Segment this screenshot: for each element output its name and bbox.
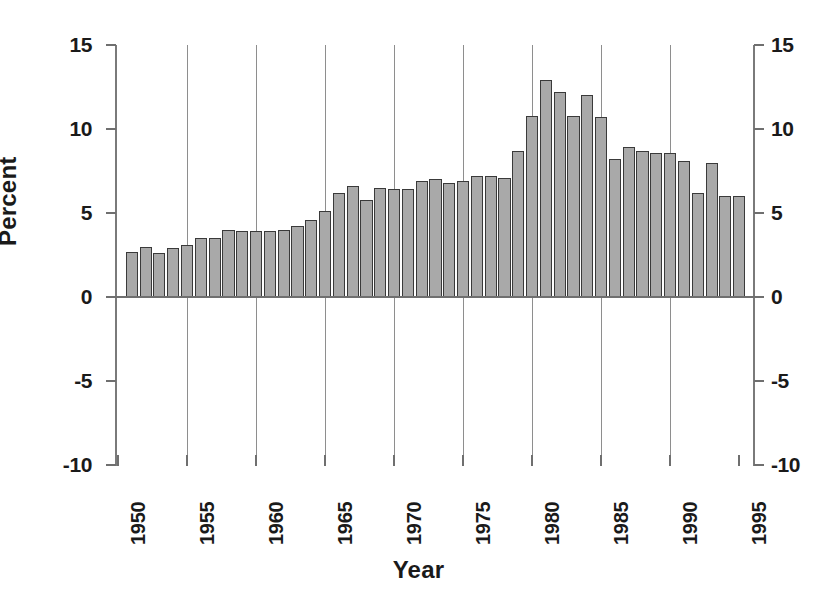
x-tick-1990 — [669, 455, 671, 466]
y-tick-left--10 — [106, 464, 116, 466]
y-tick-right-10 — [754, 128, 764, 130]
x-tick-label-1985: 1985 — [610, 502, 633, 545]
bar — [181, 245, 193, 297]
y-tick-label-right-5: 5 — [771, 202, 782, 223]
x-tick-1960 — [255, 455, 257, 466]
bar — [623, 147, 635, 297]
bar — [664, 153, 676, 297]
x-tick-1995 — [738, 455, 740, 466]
bar — [706, 163, 718, 297]
bar — [498, 178, 510, 297]
bar — [347, 186, 359, 297]
bar — [305, 220, 317, 297]
y-tick-label-left-10: 10 — [69, 118, 92, 139]
x-tick-label-1950: 1950 — [127, 502, 150, 545]
y-tick-left-10 — [106, 128, 116, 130]
bar — [416, 181, 428, 297]
y-tick-right--5 — [754, 380, 764, 382]
y-tick-label-right-0: 0 — [771, 286, 782, 307]
y-tick-right-0 — [754, 296, 764, 298]
y-tick-left-15 — [106, 44, 116, 46]
bar — [236, 231, 248, 297]
bar — [650, 153, 662, 297]
bar — [209, 238, 221, 297]
bar — [126, 252, 138, 297]
bar — [609, 159, 621, 297]
bar — [485, 176, 497, 297]
y-tick-label-left--10: -10 — [63, 454, 92, 475]
x-tick-1965 — [324, 455, 326, 466]
bar — [278, 230, 290, 297]
bar — [719, 196, 731, 297]
y-tick-label-right--10: -10 — [771, 454, 800, 475]
y-tick-left--5 — [106, 380, 116, 382]
x-axis-title: Year — [0, 556, 837, 584]
y-tick-right-15 — [754, 44, 764, 46]
plot-area — [118, 45, 753, 465]
x-tick-label-1995: 1995 — [748, 502, 771, 545]
y-tick-label-left-5: 5 — [81, 202, 92, 223]
bar — [222, 230, 234, 297]
bar — [636, 151, 648, 297]
bar — [471, 176, 483, 297]
bar — [733, 196, 745, 297]
bar — [291, 226, 303, 297]
y-tick-left-5 — [106, 212, 116, 214]
bar — [167, 248, 179, 297]
x-tick-1980 — [531, 455, 533, 466]
y-tick-label-right-15: 15 — [771, 34, 794, 55]
y-tick-label-left--5: -5 — [74, 370, 92, 391]
right-axis-spine — [753, 45, 755, 466]
bar — [319, 211, 331, 297]
y-tick-left-0 — [106, 296, 116, 298]
y-tick-right-5 — [754, 212, 764, 214]
bar — [374, 188, 386, 297]
bar — [443, 183, 455, 297]
bar — [402, 189, 414, 297]
bar — [153, 253, 165, 297]
x-tick-label-1990: 1990 — [679, 502, 702, 545]
bar — [678, 161, 690, 297]
bar — [595, 117, 607, 297]
bar — [457, 181, 469, 297]
bar — [554, 92, 566, 297]
x-tick-1985 — [600, 455, 602, 466]
bar — [264, 231, 276, 297]
left-axis-spine — [115, 45, 117, 466]
x-tick-label-1955: 1955 — [196, 502, 219, 545]
x-tick-label-1970: 1970 — [403, 502, 426, 545]
x-tick-label-1960: 1960 — [265, 502, 288, 545]
x-tick-1955 — [186, 455, 188, 466]
chart-figure: 151510105500-5-5-10-10 19501955196019651… — [0, 0, 837, 591]
y-tick-right--10 — [754, 464, 764, 466]
y-tick-label-right--5: -5 — [771, 370, 789, 391]
x-tick-label-1965: 1965 — [334, 502, 357, 545]
zero-baseline — [106, 296, 756, 298]
bar — [429, 179, 441, 297]
bar — [692, 193, 704, 297]
bar — [388, 189, 400, 297]
y-tick-label-left-15: 15 — [69, 34, 92, 55]
x-tick-label-1975: 1975 — [472, 502, 495, 545]
x-tick-1950 — [117, 455, 119, 466]
x-tick-1975 — [462, 455, 464, 466]
bar — [526, 116, 538, 297]
bar — [140, 247, 152, 297]
y-tick-label-right-10: 10 — [771, 118, 794, 139]
bar — [581, 95, 593, 297]
x-tick-1970 — [393, 455, 395, 466]
x-tick-label-1980: 1980 — [541, 502, 564, 545]
y-tick-label-left-0: 0 — [81, 286, 92, 307]
bar — [250, 231, 262, 297]
bar — [333, 193, 345, 297]
bar — [567, 116, 579, 297]
bar — [540, 80, 552, 297]
bar — [360, 200, 372, 297]
bar — [195, 238, 207, 297]
bar — [512, 151, 524, 297]
y-axis-title: Percent — [0, 157, 22, 246]
